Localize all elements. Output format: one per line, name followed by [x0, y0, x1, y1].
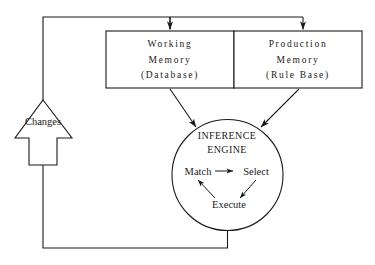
inference-engine-title: INFERENCE ENGINE	[177, 129, 277, 156]
working-memory-line-1: Working	[106, 37, 234, 53]
engine-title-line-1: INFERENCE	[177, 129, 277, 143]
working-memory-label: Working Memory (Database)	[106, 37, 234, 84]
changes-block-arrow	[15, 100, 72, 165]
production-memory-line-2: Memory	[234, 53, 362, 69]
cycle-step-match: Match	[176, 166, 220, 178]
production-memory-line-3: (Rule Base)	[234, 68, 362, 84]
production-memory-line-1: Production	[234, 37, 362, 53]
production-memory-label: Production Memory (Rule Base)	[234, 37, 362, 84]
changes-label: Changes	[13, 116, 73, 127]
cycle-step-execute: Execute	[203, 199, 255, 211]
pm-to-engine-arrow	[261, 89, 299, 127]
engine-title-line-2: ENGINE	[177, 143, 277, 157]
working-memory-line-3: (Database)	[106, 68, 234, 84]
cycle-step-select: Select	[234, 166, 278, 178]
working-memory-line-2: Memory	[106, 53, 234, 69]
wm-to-engine-arrow	[170, 89, 196, 127]
production-system-diagram: Working Memory (Database) Production Mem…	[0, 0, 375, 265]
